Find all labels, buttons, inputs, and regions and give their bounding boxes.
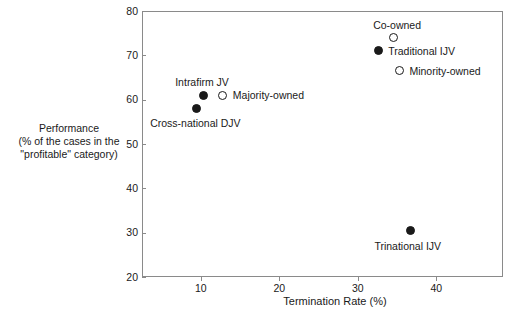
y-axis-title-line-3: "profitable" category) — [6, 148, 132, 161]
x-tick-mark — [436, 277, 437, 281]
y-tick-mark — [142, 100, 146, 101]
data-point-label: Co-owned — [373, 19, 421, 31]
x-tick-mark — [358, 277, 359, 281]
y-tick-mark — [142, 11, 146, 12]
data-point-label: Intrafirm JV — [175, 76, 229, 88]
y-axis-title: Performance (% of the cases in the "prof… — [6, 122, 132, 161]
y-tick-mark — [142, 144, 146, 145]
data-point-label: Traditional IJV — [388, 45, 455, 57]
x-tick-mark — [279, 277, 280, 281]
data-point-marker — [192, 104, 201, 113]
data-point-label: Cross-national DJV — [150, 117, 240, 129]
y-tick-mark — [142, 188, 146, 189]
data-point-marker — [218, 91, 227, 100]
data-point-marker — [389, 33, 398, 42]
y-tick-mark — [142, 55, 146, 56]
data-point-label: Trinational IJV — [374, 240, 441, 252]
data-point-marker — [199, 91, 208, 100]
x-tick-label: 20 — [264, 283, 294, 294]
data-point-label: Minority-owned — [409, 65, 480, 77]
x-tick-label: 40 — [421, 283, 451, 294]
scatter-plot-figure: 20304050607080 10203040 Intrafirm JVMajo… — [0, 0, 520, 318]
y-axis-title-line-2: (% of the cases in the — [6, 135, 132, 148]
x-tick-label: 30 — [343, 283, 373, 294]
data-point-marker — [406, 226, 415, 235]
y-axis-title-line-1: Performance — [6, 122, 132, 135]
x-tick-mark — [201, 277, 202, 281]
data-point-label: Majority-owned — [233, 89, 304, 101]
y-tick-mark — [142, 233, 146, 234]
x-tick-label: 10 — [186, 283, 216, 294]
y-tick-mark — [142, 277, 146, 278]
x-axis-title: Termination Rate (%) — [225, 295, 445, 307]
